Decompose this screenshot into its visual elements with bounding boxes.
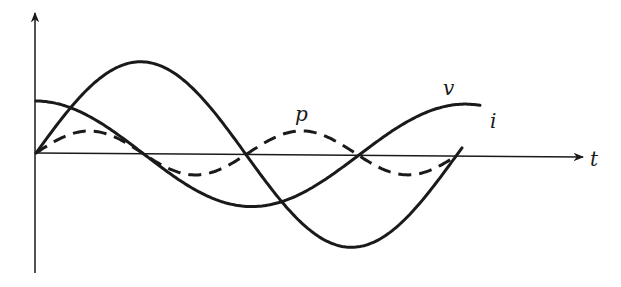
label-i: i xyxy=(490,111,496,131)
x-axis xyxy=(35,153,583,157)
label-t-axis: t xyxy=(590,149,598,169)
waveform-diagram xyxy=(0,0,621,287)
label-p: p xyxy=(295,104,308,124)
label-v: v xyxy=(443,78,454,98)
